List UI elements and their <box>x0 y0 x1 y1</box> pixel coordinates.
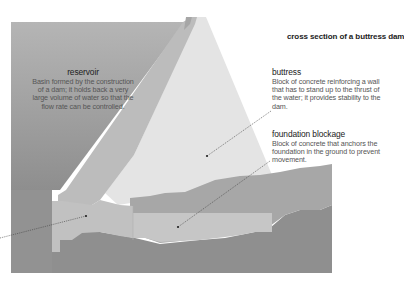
foundation-blockage-description: Block of concrete that anchors the found… <box>272 139 380 165</box>
reservoir-description: Basin formed by the construction of a da… <box>32 77 133 111</box>
label-foundation-blockage: foundation blockage Block of concrete th… <box>272 130 384 165</box>
label-buttress: buttress Block of concrete reinforcing a… <box>272 68 384 111</box>
ground-bedrock-fill <box>11 190 52 273</box>
label-reservoir: reservoir Basin formed by the constructi… <box>30 68 136 111</box>
diagram-title: cross section of a buttress dam <box>287 32 404 41</box>
buttress-description: Block of concrete reinforcing a wall tha… <box>272 77 380 111</box>
